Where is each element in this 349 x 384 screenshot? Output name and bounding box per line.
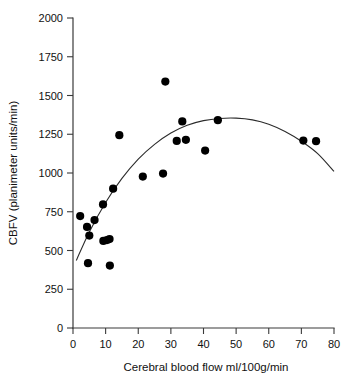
data-point <box>214 116 222 124</box>
data-point <box>84 259 92 267</box>
x-tick-label: 70 <box>295 338 307 350</box>
data-point <box>115 131 123 139</box>
x-axis-title: Cerebral blood flow ml/100g/min <box>124 361 289 373</box>
data-point <box>312 137 320 145</box>
data-point <box>85 232 93 240</box>
data-point <box>90 216 98 224</box>
y-axis-ticks: 025050075010001250150017502000 <box>39 12 73 334</box>
chart-figure: 025050075010001250150017502000 010203040… <box>0 0 349 384</box>
data-point <box>139 172 147 180</box>
data-point <box>76 212 84 220</box>
y-tick-label: 2000 <box>39 12 63 24</box>
data-point <box>109 185 117 193</box>
y-tick-label: 1750 <box>39 51 63 63</box>
data-point <box>105 235 113 243</box>
x-tick-label: 30 <box>165 338 177 350</box>
data-point <box>83 223 91 231</box>
x-tick-label: 50 <box>230 338 242 350</box>
scatter-plot: 025050075010001250150017502000 010203040… <box>0 0 349 384</box>
x-tick-label: 10 <box>100 338 112 350</box>
y-tick-label: 0 <box>57 322 63 334</box>
data-point <box>161 77 169 85</box>
data-point <box>159 170 167 178</box>
data-point <box>99 200 107 208</box>
x-tick-label: 40 <box>197 338 209 350</box>
x-tick-label: 80 <box>328 338 340 350</box>
data-point <box>178 117 186 125</box>
y-axis-title: CBFV (planimeter units/min) <box>7 101 19 246</box>
y-tick-label: 750 <box>45 206 63 218</box>
y-tick-label: 500 <box>45 245 63 257</box>
x-tick-label: 20 <box>132 338 144 350</box>
data-point <box>173 137 181 145</box>
y-tick-label: 250 <box>45 283 63 295</box>
data-point <box>299 137 307 145</box>
data-points <box>76 77 320 269</box>
x-axis-ticks: 01020304050607080 <box>70 328 340 350</box>
data-point <box>106 261 114 269</box>
y-tick-label: 1000 <box>39 167 63 179</box>
x-tick-label: 0 <box>70 338 76 350</box>
data-point <box>201 146 209 154</box>
x-tick-label: 60 <box>263 338 275 350</box>
y-tick-label: 1250 <box>39 128 63 140</box>
data-point <box>182 136 190 144</box>
y-tick-label: 1500 <box>39 90 63 102</box>
